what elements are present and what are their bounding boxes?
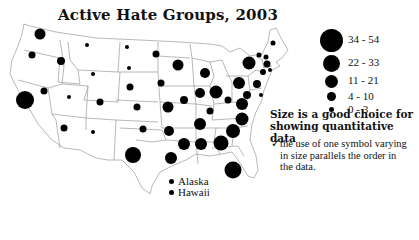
dot-oh [210, 86, 223, 99]
dot-tn [194, 118, 206, 130]
dot-nj [253, 80, 261, 88]
dot-ma [264, 61, 271, 68]
state-outlines [10, 24, 288, 194]
dot-wi [173, 60, 184, 71]
legend-label: 11 - 21 [348, 74, 379, 86]
dot-nh [264, 55, 269, 60]
hawaii-dot [169, 190, 174, 195]
dot-sc [226, 124, 240, 138]
legend-item: 22 - 33 [318, 54, 418, 74]
dot-al [195, 138, 207, 150]
dot-la [165, 152, 177, 164]
legend-label: 4 - 10 [348, 90, 374, 102]
legend-item: 11 - 21 [318, 74, 418, 90]
legend-item: 4 - 10 [318, 90, 418, 103]
checkmark-icon: ✓ [271, 138, 280, 150]
dot-ga [214, 136, 229, 151]
legend-dot-sm [327, 92, 336, 101]
dot-mn [153, 51, 160, 58]
dot-va [236, 98, 248, 110]
dot-id [57, 57, 65, 65]
dot-ok [140, 126, 147, 133]
inset-hawaii: Hawaii [168, 187, 210, 198]
dot-sd [127, 66, 131, 70]
dot-nv [41, 88, 48, 95]
dot-ny [243, 57, 256, 70]
dot-wy [91, 72, 95, 76]
dot-nc [236, 113, 249, 126]
dot-mt [85, 43, 89, 47]
dot-ms [178, 138, 190, 150]
legend-item: 34 - 54 [318, 28, 418, 54]
dot-ut [67, 95, 71, 99]
dot-mo [163, 102, 174, 113]
legend-label: 22 - 33 [348, 56, 379, 68]
dot-co [97, 99, 104, 106]
dot-ne [127, 84, 134, 91]
dot-ar [164, 126, 174, 136]
legend-dot-xl [320, 29, 343, 52]
note-line-1: the use of one symbol varying [280, 138, 407, 149]
dot-ia [158, 80, 165, 87]
dot-il [180, 96, 188, 104]
legend-label: 34 - 54 [348, 33, 379, 45]
dot-me [271, 41, 276, 46]
dot-wv [225, 97, 232, 104]
dot-mi [200, 68, 210, 78]
dot-az [61, 125, 68, 132]
size-legend: 34 - 54 22 - 33 11 - 21 4 - 10 0 - 3 [318, 28, 418, 116]
dot-ct [260, 69, 266, 75]
hawaii-label: Hawaii [178, 186, 210, 198]
dot-wa [35, 29, 46, 40]
note-body: ✓the use of one symbol varying in size p… [271, 138, 419, 173]
dot-ca [16, 91, 34, 109]
legend-dot-md [325, 75, 338, 88]
dot-ks [134, 104, 141, 111]
dot-vt [257, 53, 262, 58]
state-symbols [16, 29, 276, 179]
dot-or [29, 52, 36, 59]
dot-nm [91, 130, 95, 134]
dot-de [259, 93, 263, 97]
note-line-3: the data. [271, 161, 419, 173]
legend-dot-lg [323, 55, 340, 72]
dot-pa [233, 77, 245, 89]
dot-tx [125, 147, 141, 163]
dot-md [243, 91, 251, 99]
dot-in [195, 88, 205, 98]
dot-ri [268, 68, 272, 72]
note-line-2: in size parallels the order in [271, 150, 419, 162]
dot-nd [125, 45, 129, 49]
dot-fl [225, 162, 242, 179]
alaska-dot [169, 179, 174, 184]
inset-states: Alaska Hawaii [168, 176, 210, 198]
dot-ky [207, 108, 214, 115]
